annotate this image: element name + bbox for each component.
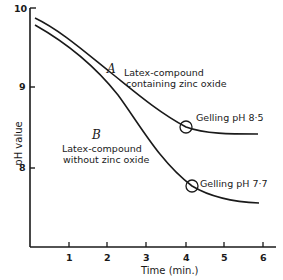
gelling-annotation-a: Gelling pH 8·5 <box>196 112 264 123</box>
x-axis-title: Time (min.) <box>141 265 199 276</box>
x-tick-label-2: 2 <box>104 252 111 263</box>
series-a-label-line2: containing zinc oxide <box>126 78 227 89</box>
y-axis-title: pH value <box>13 121 24 165</box>
chart-plot-area <box>0 0 283 280</box>
gelling-annotation-b: Gelling pH 7·7 <box>200 178 268 189</box>
x-tick-label-5: 5 <box>221 252 228 263</box>
series-b-label-line1: Latex-compound <box>62 143 142 154</box>
series-a-letter: A <box>107 64 116 75</box>
series-a-label-line1: Latex-compound <box>124 67 204 78</box>
series-b-label-line2: without zinc oxide <box>63 154 149 165</box>
x-tick-label-4: 4 <box>183 252 190 263</box>
series-b-letter: B <box>92 130 101 141</box>
x-tick-label-6: 6 <box>260 252 267 263</box>
x-tick-label-1: 1 <box>66 252 73 263</box>
x-tick-label-3: 3 <box>143 252 150 263</box>
y-tick-label-10: 10 <box>14 3 27 14</box>
y-tick-label-9: 9 <box>19 81 26 92</box>
